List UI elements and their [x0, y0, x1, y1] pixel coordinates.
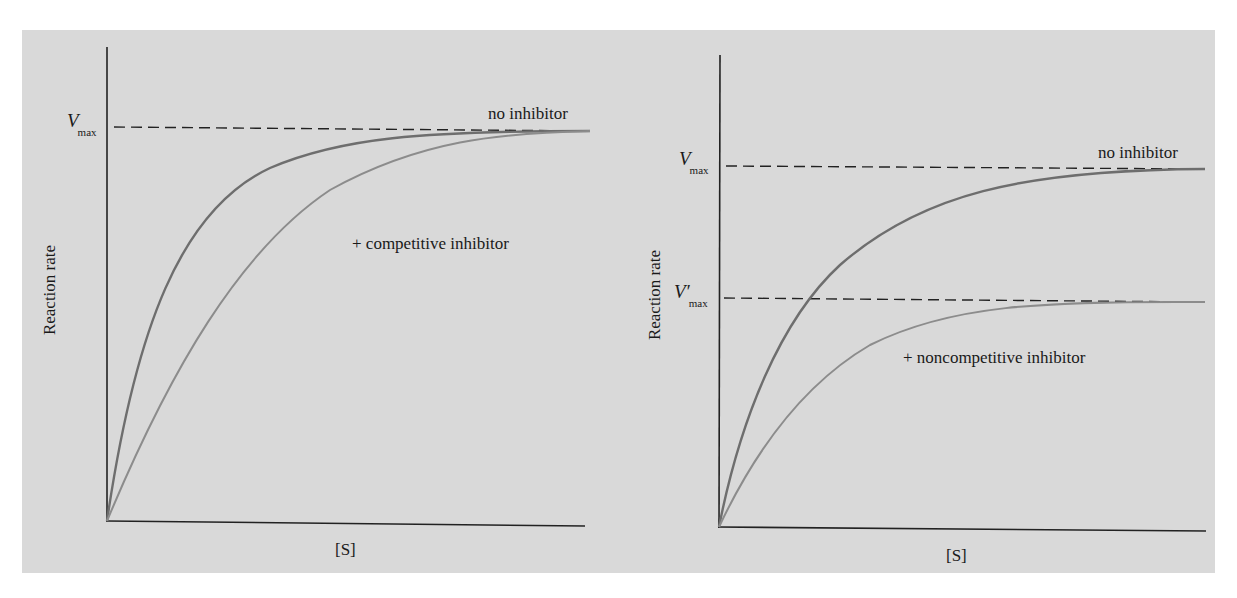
right-y-axis-label: Reaction rate [645, 245, 665, 345]
right-vmax-prime-label: V′max [674, 281, 708, 303]
left-vmax-label: Vmax [67, 110, 97, 132]
figure-graphics [0, 0, 1237, 598]
right-vmax-subscript: max [690, 164, 709, 176]
left-x-axis [107, 521, 585, 526]
right-vmax-dashed-line [726, 166, 1205, 169]
right-vmax-label: Vmax [679, 148, 709, 170]
right-vmax-symbol: V [679, 148, 691, 169]
right-vmax-prime-subscript: max [689, 297, 708, 309]
right-label-noncompetitive-inhibitor: + noncompetitive inhibitor [903, 348, 1085, 368]
left-vmax-symbol: V [67, 110, 79, 131]
right-y-axis [719, 55, 720, 528]
right-curve-noncompetitive-inhibitor [719, 302, 1205, 527]
right-vmax-prime-symbol: V′ [674, 281, 690, 302]
left-vmax-dashed-line [114, 127, 590, 131]
left-label-no-inhibitor: no inhibitor [488, 104, 568, 124]
right-chart [718, 55, 1206, 531]
left-curve-competitive-inhibitor [107, 131, 590, 521]
left-x-axis-label: [S] [335, 540, 356, 560]
right-x-axis-label: [S] [946, 546, 967, 566]
left-vmax-subscript: max [78, 126, 97, 138]
left-y-axis-label: Reaction rate [40, 240, 60, 340]
left-label-competitive-inhibitor: + competitive inhibitor [352, 234, 509, 254]
left-curve-no-inhibitor [107, 131, 590, 521]
right-x-axis [718, 527, 1206, 531]
right-label-no-inhibitor: no inhibitor [1098, 143, 1178, 163]
